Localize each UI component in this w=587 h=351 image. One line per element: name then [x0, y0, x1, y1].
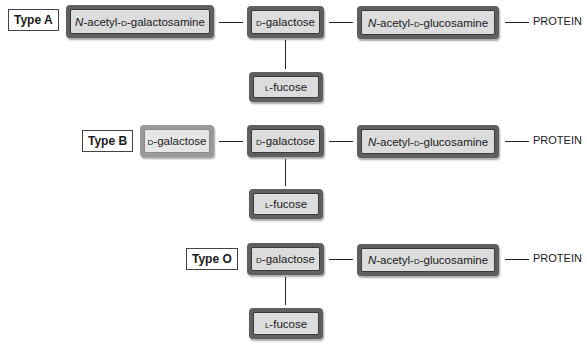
o-n-acetyl-glucosamine-box: N-acetyl-d-glucosamine — [357, 244, 499, 276]
label-part: -galactose — [153, 135, 206, 147]
a-fucose-box: l-fucose — [249, 72, 323, 102]
label-part: -acetyl- — [376, 17, 414, 29]
connector — [285, 159, 286, 186]
label-part: -glucosamine — [420, 136, 488, 148]
type-b-label: Type B — [82, 130, 133, 152]
label-part: -acetyl- — [83, 16, 121, 28]
label-part: -acetyl- — [376, 254, 414, 266]
label-part: -galactose — [262, 16, 315, 28]
italic-n: N — [368, 136, 376, 148]
italic-n: N — [368, 254, 376, 266]
type-o-label: Type O — [186, 248, 238, 270]
label-part: -galactose — [262, 135, 315, 147]
label-part: -glucosamine — [420, 17, 488, 29]
o-fucose-box: l-fucose — [249, 308, 323, 339]
connector — [219, 22, 243, 23]
italic-n: N — [75, 16, 83, 28]
label-part: -galactose — [262, 253, 315, 265]
connector — [505, 141, 529, 142]
label-part: -fucose — [269, 318, 307, 330]
connector — [285, 277, 286, 305]
label-part: -fucose — [269, 81, 307, 93]
label-part: -galactosamine — [127, 16, 205, 28]
b-n-acetyl-glucosamine-box: N-acetyl-d-glucosamine — [357, 125, 499, 158]
connector — [329, 141, 353, 142]
type-a-label: Type A — [8, 9, 59, 31]
connector — [219, 141, 243, 142]
a-galactose-box: d-galactose — [247, 6, 324, 38]
a-n-acetyl-galactosamine-box: N-acetyl-d-galactosamine — [66, 5, 214, 38]
b-galactose-box: d-galactose — [247, 125, 324, 157]
protein-label: PROTEIN — [533, 15, 582, 27]
label-part: -glucosamine — [420, 254, 488, 266]
connector — [285, 40, 286, 69]
connector — [505, 22, 529, 23]
connector — [329, 259, 353, 260]
connector — [505, 259, 529, 260]
o-galactose-box: d-galactose — [247, 243, 324, 275]
b-fucose-box: l-fucose — [249, 189, 323, 219]
label-part: -fucose — [269, 198, 307, 210]
protein-label: PROTEIN — [533, 252, 582, 264]
a-n-acetyl-glucosamine-box: N-acetyl-d-glucosamine — [357, 6, 499, 39]
protein-label: PROTEIN — [533, 134, 582, 146]
italic-n: N — [368, 17, 376, 29]
connector — [329, 22, 353, 23]
label-part: -acetyl- — [376, 136, 414, 148]
b-terminal-galactose-box: d-galactose — [140, 125, 214, 157]
